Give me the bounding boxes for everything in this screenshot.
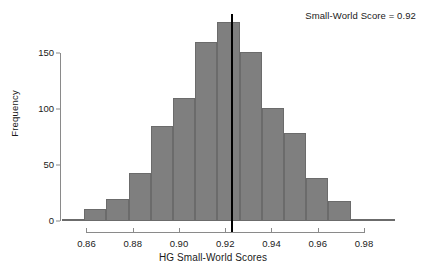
- y-axis-tick: [56, 221, 60, 222]
- x-axis-tick-label: 0.86: [77, 239, 96, 249]
- x-axis-tick: [364, 228, 365, 233]
- y-axis-tick: [56, 165, 60, 166]
- histogram-bar: [306, 178, 328, 221]
- x-axis-tick-label: 0.90: [170, 239, 189, 249]
- y-axis-tick-label: 100: [38, 104, 54, 114]
- histogram-bar: [195, 42, 217, 221]
- y-axis-tick-label: 150: [38, 48, 54, 58]
- histogram-bar: [129, 173, 151, 221]
- x-axis: 0.860.880.900.920.940.960.98: [61, 232, 394, 233]
- x-axis-tick: [133, 228, 134, 233]
- histogram-figure: Frequency 050100150 0.860.880.900.920.94…: [0, 0, 426, 276]
- y-axis-title-text: Frequency: [9, 90, 20, 137]
- plot-area: [61, 14, 394, 221]
- histogram-bar: [151, 126, 173, 221]
- x-axis-tick-label: 0.94: [262, 239, 281, 249]
- histogram-bar: [262, 108, 284, 221]
- histogram-bar: [373, 219, 395, 221]
- x-axis-tick: [318, 228, 319, 233]
- x-axis-tick: [179, 228, 180, 233]
- y-axis-tick-label: 0: [49, 216, 54, 226]
- histogram-bar: [284, 133, 306, 221]
- histogram-bar: [84, 209, 106, 221]
- small-world-score-reference-line: [231, 14, 233, 233]
- x-axis-title: HG Small-World Scores: [0, 252, 426, 263]
- y-axis-tick: [56, 53, 60, 54]
- y-axis-tick: [56, 109, 60, 110]
- x-axis-tick-label: 0.98: [355, 239, 374, 249]
- histogram-bar: [62, 219, 84, 221]
- histogram-bar: [217, 22, 239, 221]
- y-axis-tick-label: 50: [43, 160, 54, 170]
- x-axis-tick: [225, 228, 226, 233]
- x-axis-tick-label: 0.92: [216, 239, 235, 249]
- x-axis-tick-label: 0.96: [308, 239, 327, 249]
- y-axis-title: Frequency: [2, 0, 26, 226]
- histogram-bar: [240, 52, 262, 221]
- histogram-bar: [106, 199, 128, 221]
- histogram-bar: [328, 201, 350, 221]
- small-world-score-annotation: Small-World Score = 0.92: [305, 10, 416, 21]
- x-axis-tick: [271, 228, 272, 233]
- histogram-bar: [351, 219, 373, 221]
- histogram-bar: [173, 98, 195, 221]
- x-axis-tick-label: 0.88: [123, 239, 142, 249]
- x-axis-tick: [86, 228, 87, 233]
